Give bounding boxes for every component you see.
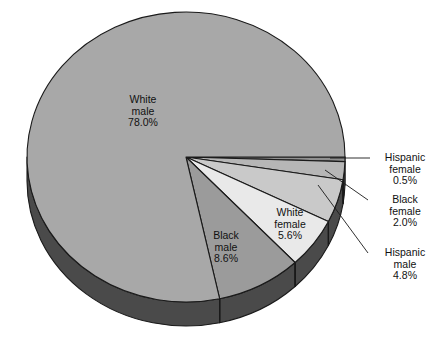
pie-top-faces <box>27 12 345 302</box>
slice-label-white-male-line1: White <box>112 94 174 106</box>
slice-label-hispanic-female-line1: Hispanic <box>373 152 437 164</box>
slice-label-hispanic-female-value: 0.5% <box>373 175 437 187</box>
pie-chart: White male 78.0% Black male 8.6% White f… <box>0 0 440 342</box>
slice-label-black-male-line1: Black <box>199 230 253 242</box>
slice-label-white-female-value: 5.6% <box>261 230 319 242</box>
slice-label-white-female-line1: White <box>261 207 319 219</box>
slice-label-white-male-value: 78.0% <box>112 117 174 129</box>
slice-label-hispanic-male-line1: Hispanic <box>373 247 437 259</box>
slice-label-black-male-value: 8.6% <box>199 253 253 265</box>
slice-label-hispanic-female: Hispanic female 0.5% <box>373 152 437 187</box>
slice-label-white-female: White female 5.6% <box>261 207 319 242</box>
slice-label-black-female-value: 2.0% <box>373 217 437 229</box>
slice-label-black-female-line1: Black <box>373 194 437 206</box>
slice-label-white-male: White male 78.0% <box>112 94 174 129</box>
slice-label-hispanic-male: Hispanic male 4.8% <box>373 247 437 282</box>
slice-label-black-male: Black male 8.6% <box>199 230 253 265</box>
slice-label-black-female: Black female 2.0% <box>373 194 437 229</box>
slice-label-hispanic-male-value: 4.8% <box>373 270 437 282</box>
